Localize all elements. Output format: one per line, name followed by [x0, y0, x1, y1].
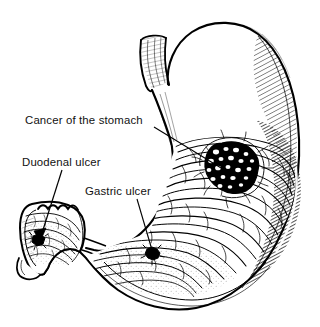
label-duodenal-ulcer: Duodenal ulcer: [22, 156, 101, 168]
label-cancer-of-the-stomach: Cancer of the stomach: [25, 114, 143, 126]
label-gastric-ulcer: Gastric ulcer: [85, 185, 151, 197]
stomach-anatomy-figure: Cancer of the stomach Duodenal ulcer Gas…: [0, 0, 320, 327]
figure-canvas: Cancer of the stomach Duodenal ulcer Gas…: [0, 0, 320, 327]
